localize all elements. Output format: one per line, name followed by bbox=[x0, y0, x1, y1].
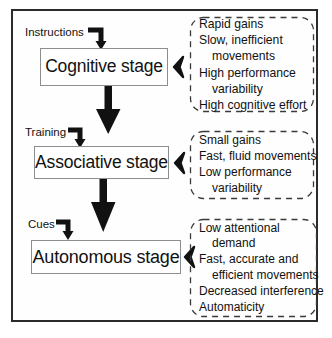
callout-line: Fast, accurate and bbox=[199, 252, 311, 268]
callout-line: Automaticity bbox=[199, 300, 311, 316]
callout-line: variability bbox=[199, 81, 308, 97]
callout-line: Fast, fluid movements bbox=[199, 149, 308, 165]
skill-acquisition-diagram: Instructions Training Cues Cognitive sta… bbox=[0, 0, 332, 338]
stage-label-associative: Associative stage bbox=[35, 154, 168, 172]
input-label-cues: Cues bbox=[28, 219, 55, 231]
callout-autonomous: Low attentional demand Fast, accurate an… bbox=[190, 219, 317, 317]
stage-box-autonomous[interactable]: Autonomous stage bbox=[31, 240, 181, 274]
callout-cognitive: Rapid gains Slow, inefficient movements … bbox=[190, 17, 314, 112]
callout-line: Low attentional bbox=[199, 221, 311, 237]
callout-line: Small gains bbox=[199, 133, 308, 149]
callout-associative: Small gains Fast, fluid movements Low pe… bbox=[190, 131, 314, 199]
callout-line: Decreased interference bbox=[199, 284, 311, 300]
stage-box-cognitive[interactable]: Cognitive stage bbox=[40, 48, 168, 86]
callout-line: High cognitive effort bbox=[199, 97, 308, 113]
stage-box-associative[interactable]: Associative stage bbox=[34, 146, 169, 179]
stage-label-autonomous: Autonomous stage bbox=[33, 248, 180, 266]
callout-line: Slow, inefficient bbox=[199, 32, 308, 48]
callout-line: variability bbox=[199, 181, 308, 197]
stage-label-cognitive: Cognitive stage bbox=[45, 58, 163, 76]
callout-line: movements bbox=[199, 48, 308, 64]
callout-line: Low performance bbox=[199, 165, 308, 181]
callout-line: Rapid gains bbox=[199, 16, 308, 32]
input-label-instructions: Instructions bbox=[25, 27, 84, 39]
callout-line: efficient movements bbox=[199, 268, 311, 284]
callout-line: High performance bbox=[199, 65, 308, 81]
callout-line: demand bbox=[199, 236, 311, 252]
input-label-training: Training bbox=[25, 127, 66, 139]
